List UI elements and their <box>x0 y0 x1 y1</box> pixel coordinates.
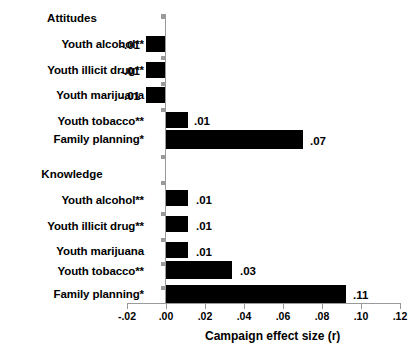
bar-value-attitudes-youth-illicit-drug: -.01 <box>93 65 140 77</box>
x-axis-line <box>127 303 401 304</box>
x-axis-tick <box>205 303 206 309</box>
category-tick <box>161 181 165 185</box>
category-tick <box>161 82 165 86</box>
bar-value-attitudes-youth-marijuana: -.01 <box>93 90 140 102</box>
bar-attitudes-family-planning <box>166 130 303 149</box>
x-tick-label-02: .02 <box>188 311 222 322</box>
category-tick <box>161 108 165 112</box>
x-tick-label-08: .08 <box>305 311 339 322</box>
x-tick-label-04: .04 <box>227 311 261 322</box>
bar-attitudes-youth-tobacco <box>166 112 188 128</box>
category-tick <box>161 212 165 216</box>
bar-attitudes-youth-illicit-drug <box>146 62 165 78</box>
bar-attitudes-youth-alcohol <box>146 36 165 52</box>
category-tick <box>161 262 165 266</box>
bar-value-attitudes-youth-alcohol: -.01 <box>93 39 140 51</box>
x-axis-tick <box>166 303 167 309</box>
category-tick <box>161 56 165 60</box>
bar-knowledge-youth-tobacco <box>166 261 232 279</box>
bar-value-knowledge-youth-alcohol: .01 <box>196 194 212 206</box>
bar-knowledge-youth-marijuana <box>166 242 188 258</box>
bar-value-knowledge-family-planning: .11 <box>353 289 368 301</box>
x-axis-tick <box>244 303 245 309</box>
plot-area: -.01 -.01 -.01 .01 .07 .01 .01 .01 .03 .… <box>0 0 417 352</box>
x-axis-tick <box>361 303 362 309</box>
x-axis-title: Campaign effect size (r) <box>205 330 340 343</box>
bar-value-knowledge-youth-illicit-drug: .01 <box>196 220 212 232</box>
x-axis-tick <box>400 303 401 309</box>
bar-knowledge-family-planning <box>166 285 346 303</box>
category-tick <box>161 238 165 242</box>
x-tick-label-12: .12 <box>383 311 417 322</box>
zero-axis-line <box>165 14 166 303</box>
x-axis-tick <box>127 303 128 309</box>
x-axis-tick <box>322 303 323 309</box>
bar-value-attitudes-youth-tobacco: .01 <box>194 115 210 127</box>
bar-value-knowledge-youth-tobacco: .03 <box>240 265 256 277</box>
campaign-effect-size-chart: Attitudes Youth alcohol** Youth illicit … <box>0 0 417 352</box>
bar-value-attitudes-family-planning: .07 <box>310 135 326 147</box>
category-tick <box>161 155 165 159</box>
bar-knowledge-youth-illicit-drug <box>166 216 188 232</box>
x-tick-label-06: .06 <box>266 311 300 322</box>
bar-value-knowledge-youth-marijuana: .01 <box>196 246 212 258</box>
bar-knowledge-youth-alcohol <box>166 190 188 206</box>
category-tick <box>161 14 165 19</box>
x-tick-label-neg-02: -.02 <box>110 311 144 322</box>
x-tick-label-00: .00 <box>149 311 183 322</box>
category-tick <box>161 286 165 290</box>
x-axis-tick <box>283 303 284 309</box>
x-tick-label-10: .10 <box>344 311 378 322</box>
bar-attitudes-youth-marijuana <box>146 87 165 103</box>
